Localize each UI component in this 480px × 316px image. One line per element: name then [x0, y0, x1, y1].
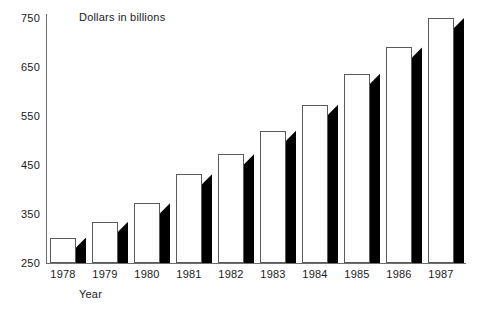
- bar-1983: [260, 131, 296, 263]
- bar-face-1986: [386, 47, 412, 263]
- x-axis-line: [46, 263, 466, 264]
- bar-1980: [134, 203, 170, 263]
- bar-1987: [428, 18, 464, 263]
- bar-shadow-1983: [286, 131, 296, 263]
- bar-face-1982: [218, 154, 244, 263]
- x-axis-tick-1982: 1982: [213, 268, 249, 280]
- bar-face-1981: [176, 174, 202, 263]
- bar-shadow-1987: [454, 18, 464, 263]
- x-axis-tick-1980: 1980: [129, 268, 165, 280]
- bar-face-1983: [260, 131, 286, 263]
- bar-face-1987: [428, 18, 454, 263]
- bar-shadow-1982: [244, 154, 254, 263]
- bar-1982: [218, 154, 254, 263]
- y-axis-tick-450: 450: [21, 159, 40, 171]
- bar-1985: [344, 74, 380, 263]
- y-axis-tick-350: 350: [21, 208, 40, 220]
- x-axis-tick-1978: 1978: [45, 268, 81, 280]
- y-axis-tick-750: 750: [21, 12, 40, 24]
- bar-1978: [50, 238, 86, 263]
- x-axis-tick-1979: 1979: [87, 268, 123, 280]
- bar-face-1979: [92, 222, 118, 263]
- bar-shadow-1985: [370, 74, 380, 263]
- x-axis-tick-1985: 1985: [339, 268, 375, 280]
- bar-chart: Dollars in billions 250350450550650750 1…: [0, 0, 480, 316]
- x-axis-tick-1981: 1981: [171, 268, 207, 280]
- x-axis-tick-1986: 1986: [381, 268, 417, 280]
- bar-1986: [386, 47, 422, 263]
- bar-shadow-1984: [328, 105, 338, 263]
- bar-shadow-1986: [412, 47, 422, 263]
- x-axis-tick-1987: 1987: [423, 268, 459, 280]
- bar-1979: [92, 222, 128, 263]
- x-axis-tick-1984: 1984: [297, 268, 333, 280]
- bar-face-1978: [50, 238, 76, 263]
- bar-1981: [176, 174, 212, 263]
- bar-face-1985: [344, 74, 370, 263]
- bar-shadow-1978: [76, 238, 86, 263]
- bar-shadow-1981: [202, 174, 212, 263]
- bar-shadow-1979: [118, 222, 128, 263]
- y-axis-tick-650: 650: [21, 61, 40, 73]
- bar-1984: [302, 105, 338, 263]
- bar-face-1980: [134, 203, 160, 263]
- x-axis-tick-1983: 1983: [255, 268, 291, 280]
- x-axis-title: Year: [79, 288, 102, 300]
- bar-shadow-1980: [160, 203, 170, 263]
- y-axis-tick-250: 250: [21, 257, 40, 269]
- y-axis-tick-550: 550: [21, 110, 40, 122]
- bar-face-1984: [302, 105, 328, 263]
